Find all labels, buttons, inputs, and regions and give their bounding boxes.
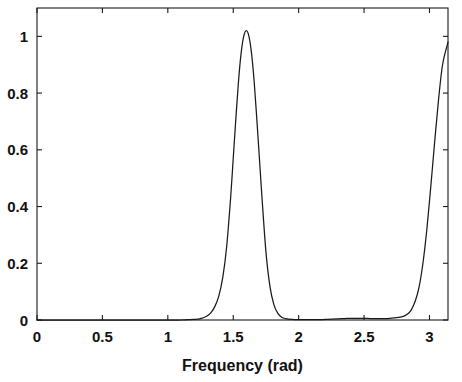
x-tick-label: 3 [425, 328, 433, 345]
x-tick-label: 1 [164, 328, 172, 345]
x-tick-label: 0 [33, 328, 41, 345]
y-tick-label: 0.4 [7, 198, 29, 215]
plot-background [37, 8, 448, 320]
y-tick-label: 0.2 [7, 255, 28, 272]
y-axis-tick-labels: 00.20.40.60.81 [7, 28, 29, 329]
y-tick-label: 0.8 [7, 85, 28, 102]
x-tick-label: 1.5 [223, 328, 244, 345]
y-tick-label: 0.6 [7, 141, 28, 158]
x-axis-tick-labels: 00.511.522.53 [33, 328, 434, 345]
x-tick-label: 0.5 [92, 328, 113, 345]
spectrum-plot: 00.511.522.53 00.20.40.60.81 Frequency (… [0, 0, 462, 382]
x-tick-label: 2.5 [354, 328, 375, 345]
x-axis-title: Frequency (rad) [182, 357, 303, 374]
y-tick-label: 0 [20, 312, 28, 329]
x-tick-label: 2 [294, 328, 302, 345]
y-tick-label: 1 [20, 28, 28, 45]
figure-canvas: 00.511.522.53 00.20.40.60.81 Frequency (… [0, 0, 462, 382]
